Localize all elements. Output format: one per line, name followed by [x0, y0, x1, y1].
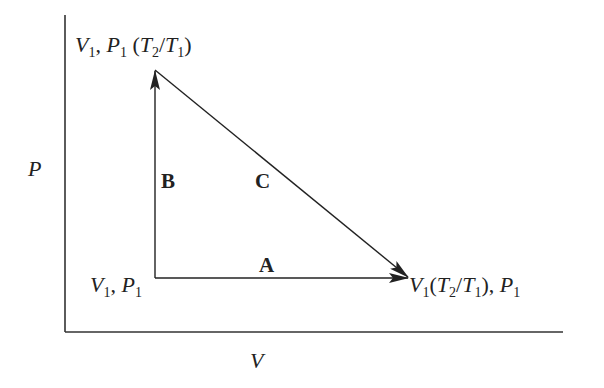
svg-text:V1(T2/T1), P1: V1(T2/T1), P1	[409, 272, 520, 300]
point-label-start: V1, P1	[90, 272, 142, 300]
path-c-arrow	[155, 70, 408, 277]
point-label-right: V1(T2/T1), P1	[409, 272, 520, 300]
path-a-label: A	[259, 253, 275, 277]
path-c-label: C	[255, 169, 270, 193]
pv-diagram: P V A B C V1, P1 (T2/T1) V1, P1 V1(T2/T1…	[0, 0, 604, 388]
svg-text:V1, P1: V1, P1	[90, 272, 142, 300]
point-label-top: V1, P1 (T2/T1)	[75, 32, 192, 60]
path-b-label: B	[161, 169, 175, 193]
y-axis-label: P	[27, 156, 41, 181]
x-axis-label: V	[250, 348, 266, 373]
svg-text:V1, P1 (T2/T1): V1, P1 (T2/T1)	[75, 32, 192, 60]
